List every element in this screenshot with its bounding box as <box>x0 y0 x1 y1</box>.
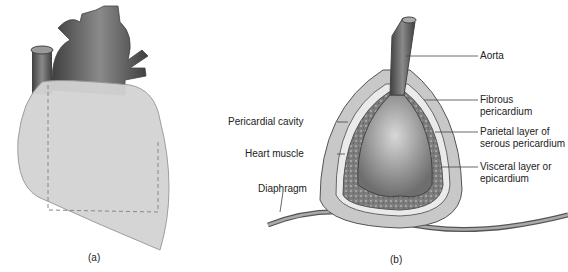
figure-b-caption: (b) <box>390 254 402 265</box>
label-pericardial-cavity: Pericardial cavity <box>228 116 304 127</box>
label-diaphragm: Diaphragm <box>258 183 307 194</box>
heart-anterior-view <box>18 6 169 250</box>
label-visceral-layer-2: epicardium <box>480 173 529 184</box>
heart-sac-cross-section <box>268 17 568 230</box>
label-fibrous-pericardium-2: pericardium <box>480 106 532 117</box>
label-visceral-layer-1: Visceral layer or <box>480 161 552 172</box>
label-parietal-layer-1: Parietal layer of <box>480 126 549 137</box>
label-heart-muscle: Heart muscle <box>245 148 304 159</box>
label-aorta: Aorta <box>480 50 504 61</box>
label-fibrous-pericardium-1: Fibrous <box>480 94 513 105</box>
figure-a-caption: (a) <box>88 252 100 263</box>
label-parietal-layer-2: serous pericardium <box>480 138 565 149</box>
